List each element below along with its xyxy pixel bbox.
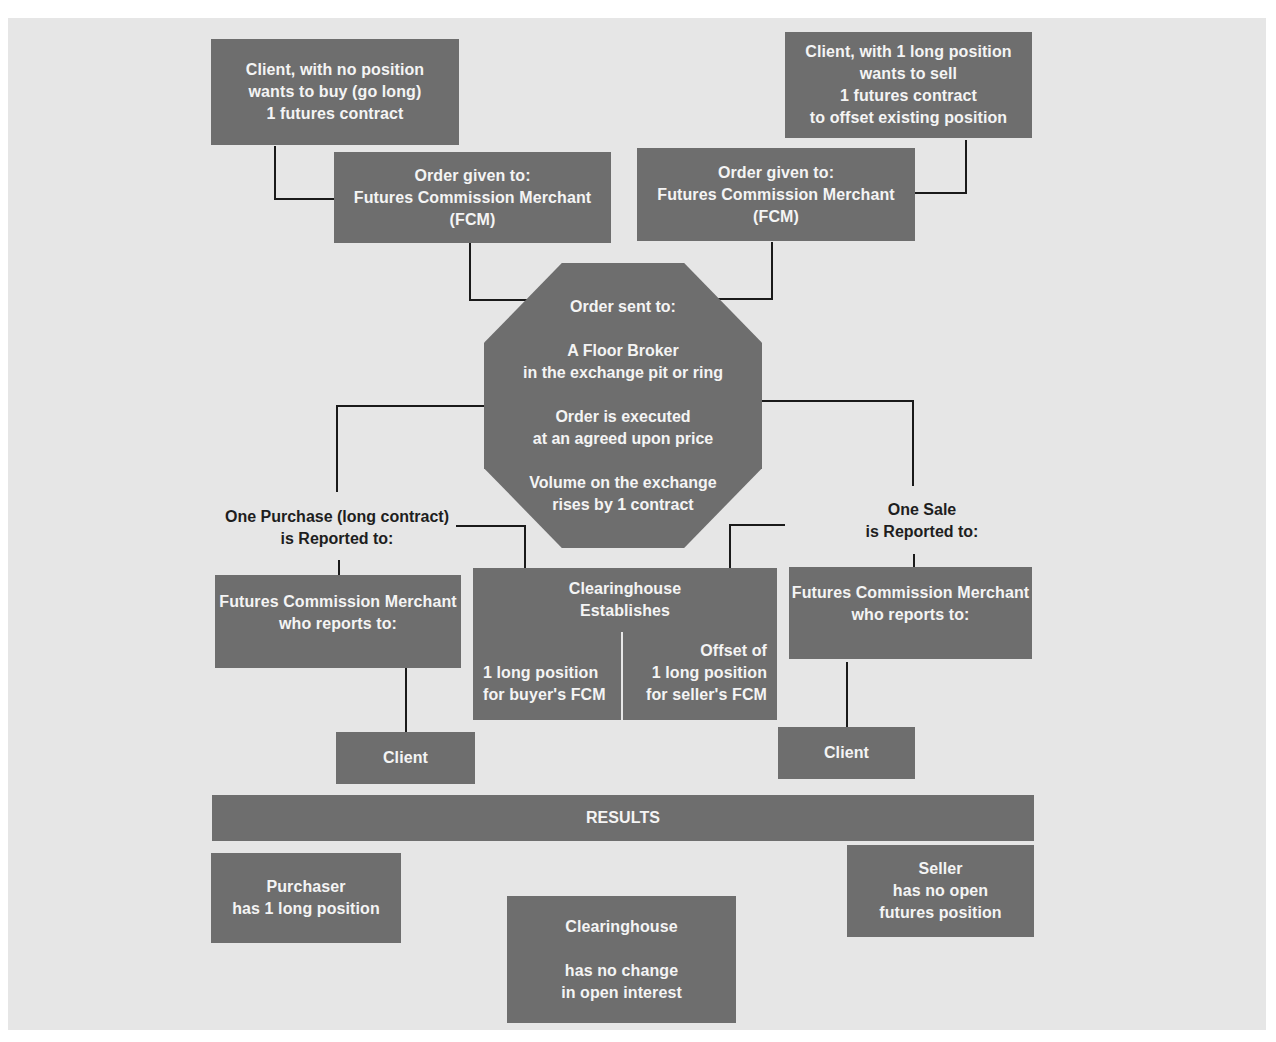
clearinghouse-buyer-side: 1 long position for buyer's FCM <box>483 662 606 706</box>
text-line: Order is executed <box>555 406 690 428</box>
text-line: Futures Commission Merchant <box>657 184 894 206</box>
text-line: Establishes <box>580 600 670 622</box>
connector <box>469 243 471 301</box>
connector <box>913 554 915 568</box>
text-line: Client <box>383 747 428 769</box>
text-line: Order given to: <box>414 165 530 187</box>
connector <box>469 299 529 301</box>
text-line: Futures Commission Merchant <box>792 582 1029 604</box>
octagon-title: Order sent to: <box>570 296 676 318</box>
text-line: 1 futures contract <box>267 103 404 125</box>
text-line: Futures Commission Merchant <box>354 187 591 209</box>
connector <box>336 405 486 407</box>
text-line: has 1 long position <box>232 898 380 920</box>
text-line: Client, with 1 long position <box>805 41 1011 63</box>
clearinghouse-box: Clearinghouse Establishes 1 long positio… <box>473 568 777 720</box>
text-line: for buyer's FCM <box>483 684 606 706</box>
text-line: to offset existing position <box>810 107 1007 129</box>
text-line: Client, with no position <box>246 59 424 81</box>
buyer-client-box: Client, with no position wants to buy (g… <box>211 39 459 145</box>
text-line: 1 futures contract <box>840 85 977 107</box>
text-line: One Sale <box>850 499 994 521</box>
text-line: futures position <box>879 902 1001 924</box>
result-seller-box: Seller has no open futures position <box>847 845 1034 937</box>
clearinghouse-seller-side: Offset of 1 long position for seller's F… <box>646 640 767 706</box>
text-line: is Reported to: <box>214 528 460 550</box>
text-line: One Purchase (long contract) <box>214 506 460 528</box>
connector <box>274 198 334 200</box>
results-title: RESULTS <box>586 807 660 829</box>
result-clearinghouse-box: Clearinghouse has no change in open inte… <box>507 896 736 1023</box>
seller-fcm-report-box: Futures Commission Merchant who reports … <box>789 567 1032 659</box>
text-line: who reports to: <box>279 613 397 635</box>
connector <box>912 400 914 486</box>
connector <box>456 525 526 527</box>
text-line: is Reported to: <box>850 521 994 543</box>
results-header: RESULTS <box>212 795 1034 841</box>
connector <box>524 525 526 571</box>
text-line: has no open <box>893 880 988 902</box>
text-line: Client <box>824 742 869 764</box>
connector <box>760 400 914 402</box>
connector <box>729 524 785 526</box>
text-line: at an agreed upon price <box>533 428 713 450</box>
text-line: in the exchange pit or ring <box>523 362 723 384</box>
sale-reported-label: One Sale is Reported to: <box>850 499 994 543</box>
text-line: has no change <box>565 960 678 982</box>
text-line: 1 long position <box>646 662 767 684</box>
connector <box>729 524 731 568</box>
text-line: Order given to: <box>718 162 834 184</box>
buyer-fcm-report-box: Futures Commission Merchant who reports … <box>215 575 461 668</box>
connector <box>716 298 773 300</box>
text-line: wants to sell <box>860 63 957 85</box>
buyer-fcm-order-box: Order given to: Futures Commission Merch… <box>334 152 611 243</box>
seller-client-end-box: Client <box>778 727 915 779</box>
text-line: Clearinghouse <box>565 916 677 938</box>
connector <box>846 662 848 727</box>
text-line: rises by 1 contract <box>552 494 693 516</box>
text-line: Purchaser <box>266 876 345 898</box>
buyer-client-end-box: Client <box>336 732 475 784</box>
text-line: in open interest <box>561 982 682 1004</box>
text-line: Seller <box>918 858 962 880</box>
text-line: 1 long position <box>483 662 606 684</box>
seller-client-box: Client, with 1 long position wants to se… <box>785 32 1032 138</box>
text-line: for seller's FCM <box>646 684 767 706</box>
connector <box>274 146 276 200</box>
connector <box>336 405 338 492</box>
clearinghouse-divider <box>621 632 623 720</box>
text-line: (FCM) <box>450 209 496 231</box>
connector <box>965 140 967 194</box>
text-line: wants to buy (go long) <box>249 81 422 103</box>
text-line: (FCM) <box>753 206 799 228</box>
text-line: Offset of <box>646 640 767 662</box>
connector <box>771 242 773 300</box>
text-line: Futures Commission Merchant <box>219 591 456 613</box>
text-line: Clearinghouse <box>569 578 681 600</box>
connector <box>405 667 407 733</box>
purchase-reported-label: One Purchase (long contract) is Reported… <box>214 506 460 550</box>
seller-fcm-order-box: Order given to: Futures Commission Merch… <box>637 148 915 241</box>
floor-broker-octagon: Order sent to: A Floor Broker in the exc… <box>484 263 762 548</box>
text-line: Volume on the exchange <box>529 472 716 494</box>
connector <box>915 192 967 194</box>
text-line: A Floor Broker <box>567 340 678 362</box>
result-purchaser-box: Purchaser has 1 long position <box>211 853 401 943</box>
text-line: who reports to: <box>852 604 970 626</box>
